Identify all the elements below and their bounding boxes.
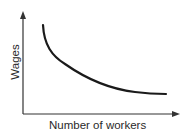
- y-axis-label: Wages: [9, 44, 21, 80]
- chart-canvas: [0, 0, 189, 138]
- x-axis-label: Number of workers: [49, 119, 145, 131]
- y-axis-arrow-icon: [20, 11, 26, 19]
- x-axis-arrow-icon: [172, 111, 180, 117]
- wage-curve: [43, 25, 166, 94]
